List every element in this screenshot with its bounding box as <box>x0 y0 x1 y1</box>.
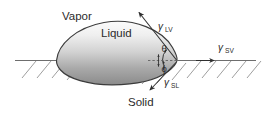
theta-angle-label: θ <box>162 43 167 54</box>
contact-angle-figure: Vapor Liquid Solid γ LV γ SV γ SL θ ϕ <box>0 0 272 113</box>
gamma-sl-label: γ SL <box>164 77 179 89</box>
gamma-sv-label: γ SV <box>218 42 234 54</box>
gamma-sl-symbol: γ <box>164 77 170 88</box>
gamma-sv-subscript: SV <box>225 47 234 54</box>
gamma-lv-label: γ LV <box>158 21 173 33</box>
vapor-label: Vapor <box>62 10 92 22</box>
diagram-canvas: Vapor Liquid Solid γ LV γ SV γ SL θ ϕ <box>0 0 272 113</box>
gamma-lv-symbol: γ <box>158 21 164 32</box>
solid-label: Solid <box>128 96 154 108</box>
liquid-label: Liquid <box>101 27 132 39</box>
gamma-sv-symbol: γ <box>218 42 224 53</box>
gamma-sl-subscript: SL <box>171 82 179 89</box>
gamma-lv-subscript: LV <box>165 26 173 33</box>
phi-angle-label: ϕ <box>162 63 167 74</box>
